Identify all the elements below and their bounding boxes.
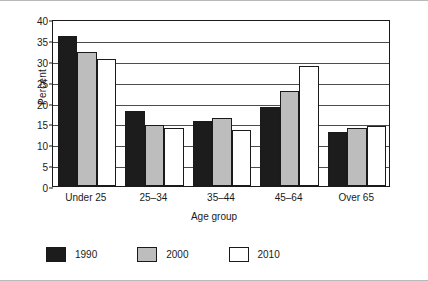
legend-swatch [229,247,249,262]
bar-group [58,21,117,186]
y-axis-tick-label: 35 [37,36,48,47]
bar-group [193,21,252,186]
bar [145,125,165,186]
x-axis-tick-label: Over 65 [338,192,374,203]
y-axis-tick-mark [49,188,53,189]
x-axis-tick-label: 45–64 [275,192,303,203]
bar [280,91,300,186]
legend-item: 2000 [137,247,188,262]
y-axis-tick-label: 0 [42,183,48,194]
bar-group [328,21,387,186]
y-axis-tick-label: 5 [42,162,48,173]
y-axis-tick-label: 15 [37,120,48,131]
bar [212,118,232,186]
legend-swatch [137,247,157,262]
bar-group [125,21,184,186]
chart-figure: Percent 0510152025303540 Under 2525–3435… [0,0,428,281]
legend-label: 1990 [75,249,97,260]
x-axis-label: Age group [0,211,428,222]
bar [260,107,280,186]
bar [164,128,184,186]
bar [77,52,97,186]
legend-swatch [46,247,66,262]
y-axis-tick-label: 30 [37,57,48,68]
y-axis-tick-label: 40 [37,16,48,27]
legend-label: 2010 [258,249,280,260]
bar [125,111,145,186]
y-axis-tick-label: 20 [37,99,48,110]
bar [232,130,252,186]
plot-area: 0510152025303540 [52,20,390,187]
legend-item: 1990 [46,247,97,262]
x-axis-tick-label: 35–44 [207,192,235,203]
legend-item: 2010 [229,247,280,262]
bar [299,66,319,186]
chart-legend: 199020002010 [46,247,320,262]
y-axis-tick-label: 25 [37,78,48,89]
bar-group [260,21,319,186]
bar [58,36,78,186]
y-axis-tick-label: 10 [37,141,48,152]
x-axis-tick-label: Under 25 [65,192,106,203]
bar [97,59,117,186]
x-axis-tick-label: 25–34 [139,192,167,203]
bar [367,126,387,186]
bar [328,132,348,186]
bars-layer [53,21,389,186]
bar [193,121,213,186]
legend-label: 2000 [166,249,188,260]
bar [347,128,367,186]
